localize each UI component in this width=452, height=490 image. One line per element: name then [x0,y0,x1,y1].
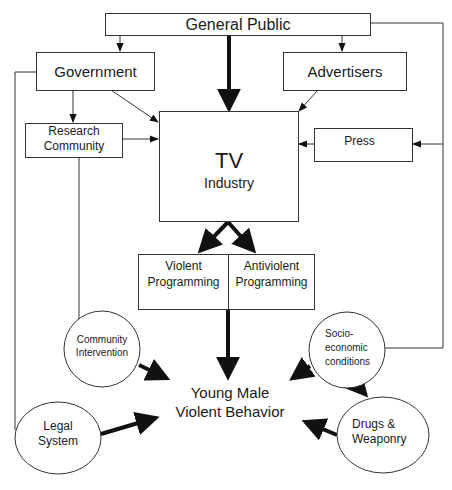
press-label: Press [315,135,404,149]
node-press: Press [314,128,413,162]
industry-label: Industry [160,175,298,191]
research-label-line1: Research [26,125,122,139]
antiviolent-label-line2: Programming [229,276,314,290]
advertisers-label: Advertisers [284,63,406,80]
young-male-label-line2: Violent Behavior [150,403,310,420]
government-label: Government [37,63,154,80]
node-research-community: Research Community [25,123,123,158]
tv-label: TV [160,148,298,173]
socio-label-line3: conditions [325,356,385,368]
drugs-label-line2: Weaponry [352,433,432,447]
violent-label-line1: Violent [139,260,228,274]
socio-label-line2: economic [325,342,385,354]
community-label-line2: Intervention [64,347,140,359]
legal-label-line2: System [15,435,101,449]
legal-label-line1: Legal [15,420,101,434]
node-government: Government [36,52,155,91]
node-general-public: General Public [105,13,371,36]
drugs-label-line1: Drugs & [352,418,432,432]
node-antiviolent-programming: Antiviolent Programming [228,254,315,310]
community-label-line1: Community [64,334,140,346]
violent-label-line2: Programming [139,276,228,290]
socio-label-line1: Socio- [325,328,385,340]
general-public-label: General Public [106,16,370,34]
node-violent-programming: Violent Programming [138,254,229,310]
node-advertisers: Advertisers [283,52,407,91]
antiviolent-label-line1: Antiviolent [229,260,314,274]
research-label-line2: Community [26,140,122,154]
young-male-label-line1: Young Male [150,384,310,401]
node-tv-industry: TV Industry [159,111,299,222]
